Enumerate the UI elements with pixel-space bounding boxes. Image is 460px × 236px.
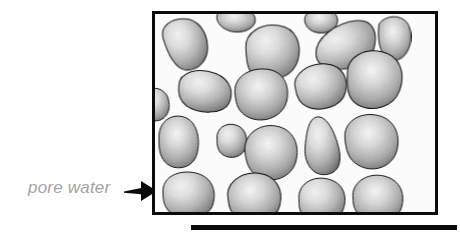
grain-lower-right-tri (305, 117, 340, 175)
figure-root: pore water (0, 0, 460, 236)
grain-center (235, 69, 288, 120)
grain-right-lower-big (345, 115, 398, 169)
base-line (191, 225, 457, 230)
pore-water-label: pore water (28, 178, 110, 198)
grain-top-left (160, 14, 212, 74)
grain-left-edge-mid (155, 88, 169, 121)
specimen-box (152, 11, 438, 215)
grain-mid-lower-small (217, 124, 247, 157)
grain-bottom-left (163, 172, 214, 212)
grain-left-lower (159, 116, 199, 168)
grain-mid-left-slab (176, 67, 235, 115)
grain-center-lower (245, 126, 297, 180)
grain-bottom-right-b (353, 175, 403, 212)
specimen-box-frame (152, 11, 438, 215)
soil-grain-canvas (155, 14, 435, 212)
grain-bottom-right-a (299, 178, 345, 212)
grain-top-mid-left (217, 14, 256, 32)
